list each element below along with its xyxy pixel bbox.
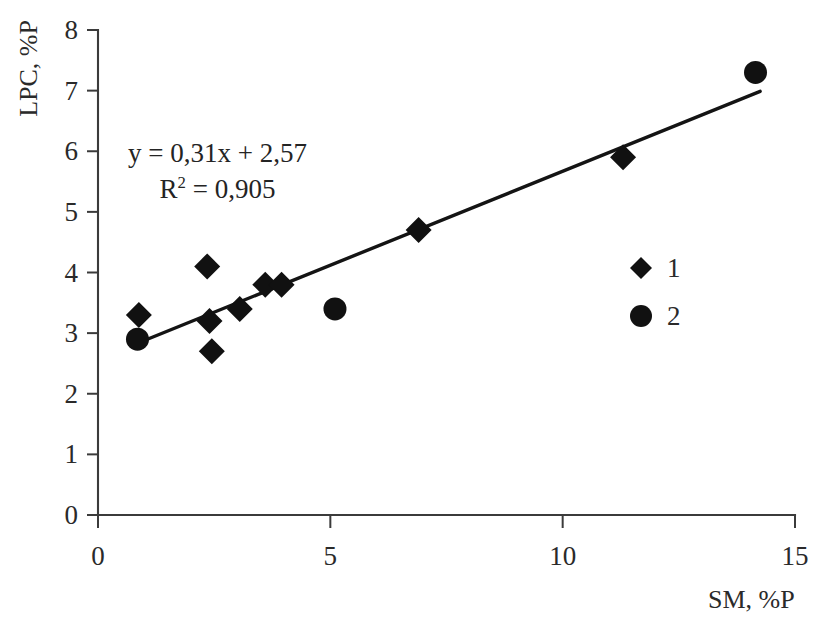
r-squared-text: R2 = 0,905 [128, 172, 307, 208]
y-tick-label: 4 [65, 259, 79, 286]
data-point-circle [323, 297, 346, 320]
data-point-circle [744, 61, 767, 84]
y-tick-label: 5 [65, 198, 79, 225]
y-tick-label: 8 [65, 17, 79, 44]
data-point-diamond [194, 253, 220, 279]
circle-marker-icon [628, 303, 654, 329]
x-tick-label: 15 [782, 543, 809, 570]
x-tick-label: 5 [324, 543, 338, 570]
x-axis-title: SM, %P [708, 585, 795, 615]
data-point-diamond [406, 217, 432, 243]
x-tick-label: 0 [91, 543, 105, 570]
y-tick-label: 6 [65, 138, 79, 165]
regression-annotation: y = 0,31x + 2,57 R2 = 0,905 [128, 136, 307, 207]
data-point-diamond [610, 144, 636, 170]
data-point-diamond [269, 272, 295, 298]
r-squared-prefix: R [160, 174, 178, 204]
r-squared-value: = 0,905 [186, 174, 275, 204]
y-tick-label: 0 [65, 502, 79, 529]
regression-equation: y = 0,31x + 2,57 [128, 136, 307, 172]
legend-label-1: 1 [667, 255, 681, 282]
r-squared-exponent: 2 [178, 173, 186, 192]
legend: 1 2 [628, 244, 681, 340]
diamond-marker-icon [628, 255, 654, 281]
legend-item-1: 1 [628, 244, 681, 292]
legend-item-2: 2 [628, 292, 681, 340]
y-tick-label: 3 [65, 320, 79, 347]
y-axis-title: LPC, %P [14, 20, 44, 117]
x-tick-label: 10 [549, 543, 576, 570]
data-point-diamond [199, 338, 225, 364]
y-tick-label: 1 [65, 441, 79, 468]
y-tick-label: 7 [65, 77, 79, 104]
data-point-diamond [126, 302, 152, 328]
scatter-chart-figure: LPC, %P SM, %P y = 0,31x + 2,57 R2 = 0,9… [0, 0, 823, 631]
plot-area [0, 0, 823, 631]
y-tick-label: 2 [65, 380, 79, 407]
legend-label-2: 2 [667, 303, 681, 330]
data-point-circle [126, 328, 149, 351]
